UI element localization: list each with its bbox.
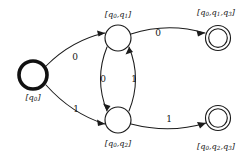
- edge-label-q0q2-q0q2q3: 1: [166, 114, 172, 124]
- transition-q0q1-to-q0q2[interactable]: 0: [100, 47, 110, 111]
- state-label-q0: [q0]: [25, 92, 41, 102]
- transition-q0q2-to-q0q1[interactable]: 1: [126, 47, 137, 111]
- state-circle-q0q1: [105, 25, 131, 51]
- state-circle-inner-q0q1q3: [209, 29, 228, 48]
- state-circle-q0q2: [105, 107, 131, 133]
- automaton-diagram: 0 1 0 1 0 1: [0, 0, 250, 160]
- state-circle-q0: [19, 61, 47, 89]
- state-label-q0q1: [q0,q1]: [105, 9, 132, 19]
- edge-label-q0q1-q0q1q3: 0: [155, 28, 161, 38]
- state-label-q0q2: [q0,q2]: [105, 138, 132, 148]
- arrow-head-start-q0q2: [97, 120, 105, 127]
- state-label-q0q2q3: [q0,q2,q3]: [197, 141, 236, 151]
- edge-path-q0q2-q0q2q3: [131, 123, 206, 129]
- edge-label-q0q1-q0q2: 0: [100, 74, 106, 84]
- transition-start-to-q0q2[interactable]: 1: [46, 85, 105, 126]
- state-label-q0q1q3: [q0,q1,q3]: [197, 7, 236, 17]
- transition-q0q2-to-q0q2q3[interactable]: 1: [131, 114, 206, 129]
- arrow-head-start-q0q1: [97, 31, 105, 37]
- state-circle-inner-q0q2q3: [209, 109, 228, 128]
- state-q0q1q3[interactable]: [q0,q1,q3]: [197, 7, 236, 51]
- state-q0q2q3[interactable]: [q0,q2,q3]: [197, 106, 236, 152]
- transition-start-to-q0q1[interactable]: 0: [46, 31, 105, 67]
- edge-label-q0q2-q0q1: 1: [131, 74, 137, 84]
- state-q0q1[interactable]: [q0,q1]: [105, 9, 132, 51]
- state-q0[interactable]: [q0]: [19, 61, 47, 102]
- edge-label-start-q0q1: 0: [72, 52, 78, 62]
- automaton-canvas: 0 1 0 1 0 1: [0, 0, 250, 160]
- transition-q0q1-to-q0q1q3[interactable]: 0: [131, 28, 205, 38]
- edge-path-q0q1-q0q1q3: [131, 28, 205, 34]
- state-q0q2[interactable]: [q0,q2]: [105, 107, 132, 148]
- edge-label-start-q0q2: 1: [73, 104, 79, 114]
